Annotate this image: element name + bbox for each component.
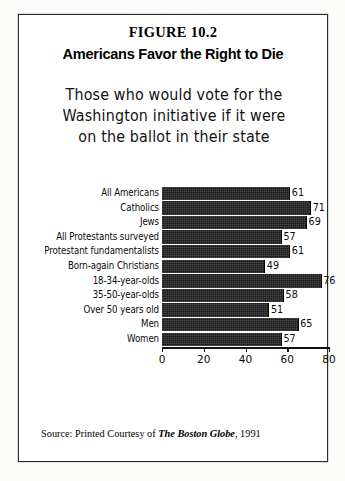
bar	[162, 260, 265, 273]
category-label: Jews	[33, 215, 159, 230]
x-axis: 020406080	[162, 347, 329, 349]
source-suffix: , 1991	[235, 428, 261, 439]
x-axis-tick-label: 0	[159, 353, 166, 365]
bar-value-label: 65	[298, 317, 313, 332]
bar-track: 49	[162, 259, 329, 274]
bar-row: Women57	[19, 332, 329, 347]
subtitle-line-3: on the ballot in their state	[42, 127, 305, 148]
x-axis-tick-label: 40	[239, 353, 252, 365]
bar-value-label: 49	[264, 259, 279, 274]
figure-title: Americans Favor the Right to Die	[28, 45, 318, 63]
category-label: All Americans	[33, 186, 159, 201]
bar-rows: All Americans61Catholics71Jews69All Prot…	[19, 186, 329, 347]
x-axis-tick-label: 60	[281, 353, 294, 365]
bar-track: 57	[162, 230, 329, 245]
bar-row: Born-again Christians49	[19, 259, 329, 274]
x-axis-tick	[204, 347, 205, 352]
bar-value-label: 61	[289, 186, 304, 201]
bar-value-label: 71	[310, 201, 325, 216]
bar-chart: All Americans61Catholics71Jews69All Prot…	[19, 176, 329, 391]
bar-track: 65	[162, 317, 329, 332]
x-axis-tick	[329, 347, 330, 352]
bar	[162, 333, 282, 346]
bar	[162, 201, 311, 214]
bar	[162, 230, 282, 243]
bar-value-label: 57	[281, 332, 296, 347]
source-prefix: Source: Printed Courtesy of	[41, 428, 156, 439]
bar-row: Men65	[19, 317, 329, 332]
bar-track: 57	[162, 332, 329, 347]
bar-row: All Americans61	[19, 186, 329, 201]
source-note: Source: Printed Courtesy of The Boston G…	[41, 428, 261, 439]
category-label: Over 50 years old	[33, 303, 159, 318]
category-label: Women	[33, 332, 159, 347]
source-publication: The Boston Globe	[158, 428, 235, 439]
figure-subtitle: Those who would vote for the Washington …	[42, 85, 305, 148]
x-axis-tick-label: 80	[322, 353, 335, 365]
category-label: Protestant fundamentalists	[33, 244, 159, 259]
bar	[162, 289, 284, 302]
bar-track: 76	[162, 274, 329, 289]
bar	[162, 245, 290, 258]
bar-track: 61	[162, 186, 329, 201]
figure-number: FIGURE 10.2	[19, 24, 327, 41]
x-axis-tick-label: 20	[197, 353, 210, 365]
x-axis-tick	[287, 347, 288, 352]
category-label: 35-50-year-olds	[33, 288, 159, 303]
bar-row: Jews69	[19, 215, 329, 230]
bar-track: 51	[162, 303, 329, 318]
bar-value-label: 61	[289, 244, 304, 259]
category-label: Catholics	[33, 201, 159, 216]
bar	[162, 274, 322, 287]
bar-value-label: 51	[268, 303, 283, 318]
bar-value-label: 57	[281, 230, 296, 245]
bar-track: 71	[162, 201, 329, 216]
category-label: All Protestants surveyed	[33, 230, 159, 245]
x-axis-tick	[162, 347, 163, 352]
category-label: 18-34-year-olds	[33, 274, 159, 289]
bar-track: 58	[162, 288, 329, 303]
x-axis-tick	[246, 347, 247, 352]
bar-row: 35-50-year-olds58	[19, 288, 329, 303]
bar-value-label: 69	[306, 215, 321, 230]
bar-row: Over 50 years old51	[19, 303, 329, 318]
bar-track: 61	[162, 244, 329, 259]
bar	[162, 187, 290, 200]
bar-row: Catholics71	[19, 201, 329, 216]
bar-row: All Protestants surveyed57	[19, 230, 329, 245]
category-label: Born-again Christians	[33, 259, 159, 274]
bar-track: 69	[162, 215, 329, 230]
figure-frame: FIGURE 10.2 Americans Favor the Right to…	[18, 14, 328, 462]
bar-value-label: 76	[321, 274, 336, 289]
bar	[162, 216, 307, 229]
subtitle-line-1: Those who would vote for the	[42, 85, 305, 106]
category-label: Men	[33, 317, 159, 332]
bar-row: Protestant fundamentalists61	[19, 244, 329, 259]
figure-root: FIGURE 10.2 Americans Favor the Right to…	[0, 0, 345, 481]
bar	[162, 318, 299, 331]
bar	[162, 303, 269, 316]
bar-value-label: 58	[283, 288, 298, 303]
subtitle-line-2: Washington initiative if it were	[42, 106, 305, 127]
bar-row: 18-34-year-olds76	[19, 274, 329, 289]
